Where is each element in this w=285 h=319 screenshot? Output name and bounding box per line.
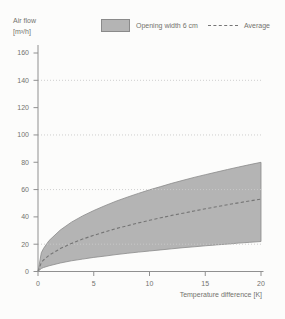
y-tick-label-60: 60	[21, 186, 29, 193]
x-tick-label-20: 20	[257, 280, 265, 287]
y-tick-label-140: 140	[17, 77, 29, 84]
y-tick-label-80: 80	[21, 159, 29, 166]
y-tick-label-40: 40	[21, 213, 29, 220]
y-tick-label-100: 100	[17, 131, 29, 138]
y-tick-label-120: 120	[17, 104, 29, 111]
chart-panel: 02040608010012014016005101520 Air flow […	[0, 0, 285, 319]
x-tick-label-15: 15	[201, 280, 209, 287]
y-tick-label-0: 0	[25, 268, 29, 275]
x-tick-label-10: 10	[146, 280, 154, 287]
legend: Opening width 6 cm Average	[0, 0, 285, 40]
y-tick-label-20: 20	[21, 241, 29, 248]
band-swatch	[101, 19, 130, 32]
band-area	[38, 162, 261, 271]
average-dash-sample	[208, 25, 238, 26]
average-legend-label: Average	[244, 22, 270, 29]
x-tick-label-5: 5	[92, 280, 96, 287]
y-tick-label-160: 160	[17, 49, 29, 56]
airflow-chart: 02040608010012014016005101520	[0, 0, 285, 319]
band-legend-label: Opening width 6 cm	[136, 22, 198, 29]
x-tick-label-0: 0	[36, 280, 40, 287]
x-axis-title: Temperature difference [K]	[0, 291, 262, 298]
